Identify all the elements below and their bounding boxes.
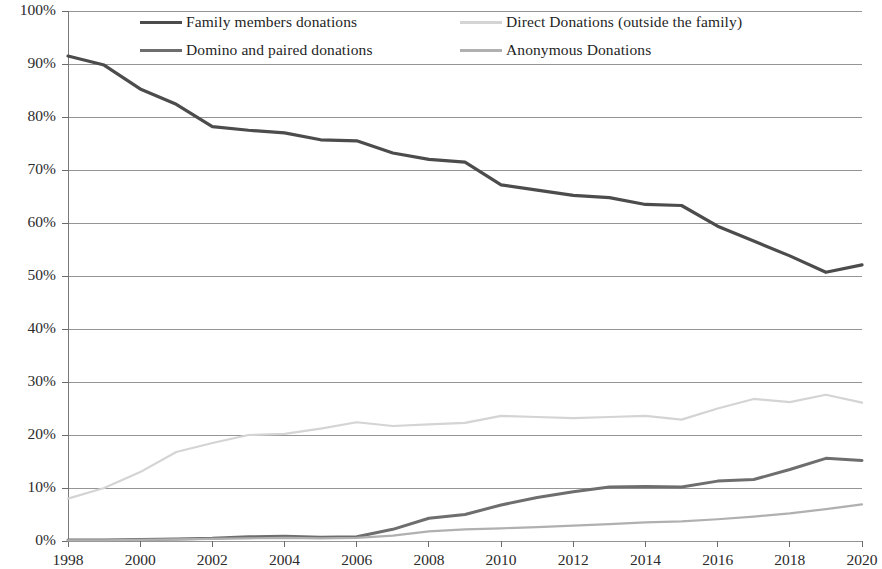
y-axis-label: 10% xyxy=(4,478,56,496)
x-axis-label: 2000 xyxy=(110,551,170,569)
x-axis-label: 2012 xyxy=(543,551,603,569)
series-lines xyxy=(68,56,862,540)
axis-ticks xyxy=(62,11,862,547)
x-axis-label: 2004 xyxy=(255,551,315,569)
y-axis-label: 80% xyxy=(4,107,56,125)
y-axis-label: 40% xyxy=(4,319,56,337)
x-axis-label: 2002 xyxy=(182,551,242,569)
x-axis-label: 2010 xyxy=(471,551,531,569)
x-axis-label: 2018 xyxy=(760,551,820,569)
y-axis-label: 90% xyxy=(4,54,56,72)
series-line-3 xyxy=(68,504,862,540)
x-axis-label: 2020 xyxy=(832,551,882,569)
y-axis-label: 60% xyxy=(4,213,56,231)
y-axis-label: 70% xyxy=(4,160,56,178)
x-axis-label: 1998 xyxy=(38,551,98,569)
x-axis-label: 2014 xyxy=(615,551,675,569)
y-axis-label: 20% xyxy=(4,425,56,443)
series-line-0 xyxy=(68,56,862,272)
y-axis-label: 50% xyxy=(4,266,56,284)
x-axis-label: 2006 xyxy=(327,551,387,569)
y-axis-label: 100% xyxy=(4,1,56,19)
series-line-2 xyxy=(68,458,862,540)
y-axis-label: 30% xyxy=(4,372,56,390)
gridlines xyxy=(68,11,862,541)
series-line-1 xyxy=(68,395,862,499)
y-axis-label: 0% xyxy=(4,531,56,549)
x-axis-label: 2008 xyxy=(399,551,459,569)
x-axis-label: 2016 xyxy=(688,551,748,569)
